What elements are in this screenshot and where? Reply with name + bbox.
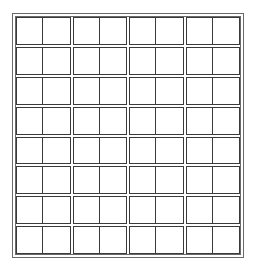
cell-pair xyxy=(186,77,241,105)
grid-cell xyxy=(156,78,182,104)
grid-cell xyxy=(213,138,239,164)
grid-cell xyxy=(17,108,43,134)
grid-cell xyxy=(187,18,213,44)
grid-cell xyxy=(187,167,213,193)
cell-pair xyxy=(186,47,241,75)
grid-cell xyxy=(187,138,213,164)
grid-cell xyxy=(100,48,126,74)
cell-pair xyxy=(73,166,128,194)
cell-pair xyxy=(129,196,184,224)
grid-cell xyxy=(17,78,43,104)
cell-pair xyxy=(16,77,71,105)
cell-pair xyxy=(186,166,241,194)
grid-cell xyxy=(17,167,43,193)
grid-cell xyxy=(213,18,239,44)
cell-pair xyxy=(129,137,184,165)
cell-pair xyxy=(16,47,71,75)
grid-cell xyxy=(43,167,69,193)
grid-cell xyxy=(156,18,182,44)
grid-cell xyxy=(156,167,182,193)
grid-cell xyxy=(74,48,100,74)
grid-cell xyxy=(74,167,100,193)
grid-cell xyxy=(100,18,126,44)
grid-cell xyxy=(187,227,213,253)
grid-cell xyxy=(100,108,126,134)
grid-cell xyxy=(130,78,156,104)
cell-pair xyxy=(16,166,71,194)
cell-pair xyxy=(73,107,128,135)
grid-cell xyxy=(156,227,182,253)
cell-pair xyxy=(73,226,128,254)
cell-pair xyxy=(73,47,128,75)
grid-cell xyxy=(187,197,213,223)
grid-cell xyxy=(213,108,239,134)
grid-cell xyxy=(213,197,239,223)
grid-cell xyxy=(43,197,69,223)
grid-cell xyxy=(17,18,43,44)
grid-outer-frame xyxy=(12,13,244,258)
grid-cell xyxy=(213,78,239,104)
cell-grid xyxy=(16,17,240,254)
grid-cell xyxy=(130,167,156,193)
grid-cell xyxy=(74,138,100,164)
cell-pair xyxy=(186,196,241,224)
grid-cell xyxy=(100,78,126,104)
grid-cell xyxy=(74,18,100,44)
grid-cell xyxy=(187,48,213,74)
cell-pair xyxy=(73,196,128,224)
cell-pair xyxy=(16,107,71,135)
grid-cell xyxy=(213,167,239,193)
grid-cell xyxy=(17,48,43,74)
cell-pair xyxy=(129,77,184,105)
grid-cell xyxy=(130,18,156,44)
cell-pair xyxy=(16,226,71,254)
grid-cell xyxy=(156,138,182,164)
grid-cell xyxy=(43,18,69,44)
grid-cell xyxy=(74,227,100,253)
cell-pair xyxy=(129,17,184,45)
grid-cell xyxy=(187,108,213,134)
grid-cell xyxy=(130,227,156,253)
cell-pair xyxy=(129,107,184,135)
cell-pair xyxy=(186,107,241,135)
cell-pair xyxy=(186,226,241,254)
grid-cell xyxy=(17,138,43,164)
cell-pair xyxy=(73,77,128,105)
cell-pair xyxy=(186,17,241,45)
grid-cell xyxy=(130,138,156,164)
grid-cell xyxy=(43,48,69,74)
grid-cell xyxy=(74,108,100,134)
grid-cell xyxy=(74,78,100,104)
grid-cell xyxy=(17,197,43,223)
grid-cell xyxy=(187,78,213,104)
grid-cell xyxy=(43,138,69,164)
grid-cell xyxy=(130,108,156,134)
cell-pair xyxy=(129,47,184,75)
grid-cell xyxy=(17,227,43,253)
cell-pair xyxy=(16,196,71,224)
cell-pair xyxy=(186,137,241,165)
grid-cell xyxy=(156,48,182,74)
grid-cell xyxy=(100,167,126,193)
cell-pair xyxy=(73,17,128,45)
grid-cell xyxy=(43,227,69,253)
grid-cell xyxy=(43,108,69,134)
grid-cell xyxy=(100,197,126,223)
grid-cell xyxy=(43,78,69,104)
cell-pair xyxy=(129,226,184,254)
grid-cell xyxy=(213,227,239,253)
cell-pair xyxy=(73,137,128,165)
grid-cell xyxy=(130,197,156,223)
cell-pair xyxy=(129,166,184,194)
grid-cell xyxy=(100,138,126,164)
grid-cell xyxy=(130,48,156,74)
grid-cell xyxy=(100,227,126,253)
grid-cell xyxy=(156,108,182,134)
cell-pair xyxy=(16,137,71,165)
cell-pair xyxy=(16,17,71,45)
grid-cell xyxy=(74,197,100,223)
grid-cell xyxy=(213,48,239,74)
grid-cell xyxy=(156,197,182,223)
